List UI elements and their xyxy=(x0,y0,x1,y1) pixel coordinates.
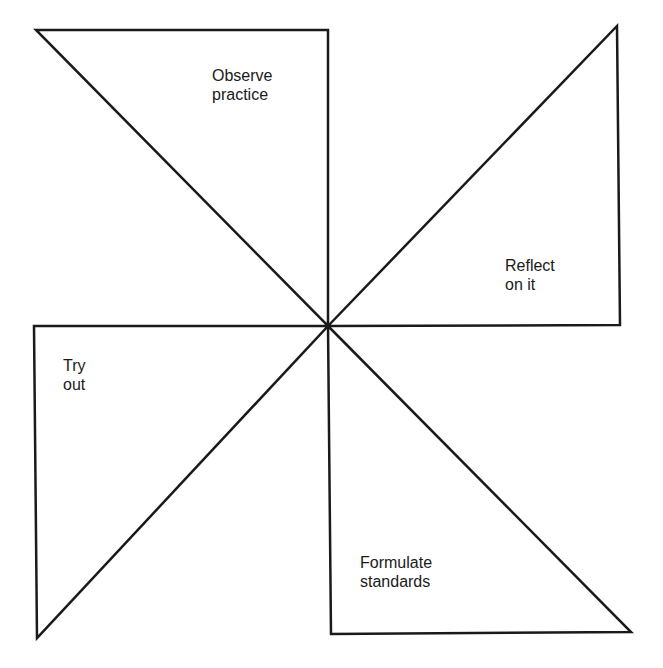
label-observe-practice: Observe practice xyxy=(212,66,272,104)
blade-observe xyxy=(36,30,328,326)
label-try-out: Try out xyxy=(63,356,86,394)
label-line: practice xyxy=(212,85,272,104)
label-line: standards xyxy=(360,572,432,591)
label-line: on it xyxy=(505,275,555,294)
blade-reflect xyxy=(328,26,620,326)
label-line: Reflect xyxy=(505,256,555,275)
label-line: Formulate xyxy=(360,553,432,572)
label-line: Observe xyxy=(212,66,272,85)
pinwheel-diagram: Observe practice Reflect on it Formulate… xyxy=(0,0,663,668)
pinwheel-shapes xyxy=(0,0,663,668)
label-line: Try xyxy=(63,356,86,375)
label-line: out xyxy=(63,375,86,394)
label-formulate-standards: Formulate standards xyxy=(360,553,432,591)
label-reflect-on-it: Reflect on it xyxy=(505,256,555,294)
